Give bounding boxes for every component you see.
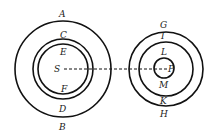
label-I: I (160, 31, 165, 41)
label-M: M (158, 80, 169, 90)
label-P: P (167, 64, 175, 74)
label-S: S (54, 64, 60, 74)
label-K: K (159, 96, 168, 106)
two-systems-diagram: A B C D E F S G H I K L M P (0, 0, 214, 137)
label-E: E (59, 47, 67, 57)
label-F: F (60, 84, 68, 94)
label-C: C (60, 30, 67, 40)
label-A: A (58, 9, 66, 19)
label-D: D (58, 104, 66, 114)
label-B: B (58, 122, 66, 132)
label-G: G (160, 20, 167, 30)
label-H: H (159, 109, 168, 119)
label-L: L (160, 47, 167, 57)
